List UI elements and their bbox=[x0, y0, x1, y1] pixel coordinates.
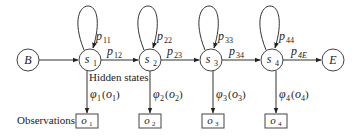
observation-box-3: o 3 bbox=[202, 114, 224, 128]
emission-label-1: φ 1 ( o 1 ) bbox=[90, 87, 120, 103]
svg-text:p: p bbox=[217, 29, 224, 43]
self-loop-label-s1: p 11 bbox=[95, 29, 111, 45]
node-B-label: B bbox=[24, 53, 32, 67]
observation-box-2: o 2 bbox=[139, 114, 161, 128]
self-loop-label-s2: p 22 bbox=[156, 29, 172, 45]
svg-text:3: 3 bbox=[223, 94, 227, 103]
svg-text:2: 2 bbox=[152, 120, 156, 128]
svg-text:φ: φ bbox=[279, 87, 286, 101]
svg-text:o: o bbox=[144, 114, 150, 126]
self-loop-s1 bbox=[78, 6, 97, 50]
svg-text:p: p bbox=[95, 29, 102, 43]
transition-label-s4-E: p 4E bbox=[290, 44, 307, 60]
svg-text:12: 12 bbox=[114, 51, 122, 60]
node-B: B bbox=[17, 49, 39, 71]
svg-text:p: p bbox=[228, 44, 235, 58]
svg-text:o: o bbox=[81, 114, 87, 126]
svg-text:4: 4 bbox=[278, 120, 282, 128]
emission-label-3: φ 3 ( o 3 ) bbox=[216, 87, 246, 103]
node-s1: s 1 bbox=[79, 49, 101, 71]
svg-text:34: 34 bbox=[236, 51, 244, 60]
svg-text:23: 23 bbox=[174, 51, 182, 60]
self-loop-s3 bbox=[199, 6, 218, 50]
svg-text:4: 4 bbox=[286, 94, 290, 103]
svg-text:p: p bbox=[166, 44, 173, 58]
svg-text:s: s bbox=[145, 52, 150, 66]
hidden-states-label: Hidden states bbox=[89, 71, 149, 83]
svg-text:3: 3 bbox=[214, 59, 218, 68]
svg-text:4E: 4E bbox=[298, 51, 307, 60]
svg-text:s: s bbox=[85, 52, 90, 66]
observation-box-1: o 1 bbox=[76, 114, 98, 128]
svg-text:1: 1 bbox=[89, 120, 93, 128]
svg-text:p: p bbox=[278, 29, 285, 43]
svg-text:p: p bbox=[156, 29, 163, 43]
svg-text:p: p bbox=[290, 44, 297, 58]
svg-text:2: 2 bbox=[153, 59, 157, 68]
observations-label: Observations bbox=[17, 114, 75, 126]
svg-text:φ: φ bbox=[90, 87, 97, 101]
svg-text:3: 3 bbox=[215, 120, 219, 128]
svg-text:1: 1 bbox=[93, 59, 97, 68]
self-loop-label-s4: p 44 bbox=[278, 29, 294, 45]
svg-text:φ: φ bbox=[216, 87, 223, 101]
svg-text:): ) bbox=[242, 88, 246, 101]
transition-label-s1-s2: p 12 bbox=[106, 44, 122, 60]
svg-text:4: 4 bbox=[275, 59, 279, 68]
node-E: E bbox=[322, 49, 344, 71]
node-E-label: E bbox=[328, 53, 337, 67]
node-s4: s 4 bbox=[261, 49, 283, 71]
svg-text:1: 1 bbox=[97, 94, 101, 103]
svg-text:): ) bbox=[179, 88, 183, 101]
svg-text:): ) bbox=[116, 88, 120, 101]
svg-text:φ: φ bbox=[153, 87, 160, 101]
node-s2: s 2 bbox=[139, 49, 161, 71]
node-s3: s 3 bbox=[200, 49, 222, 71]
self-loop-label-s3: p 33 bbox=[217, 29, 233, 45]
svg-text:o: o bbox=[270, 114, 276, 126]
emission-label-4: φ 4 ( o 4 ) bbox=[279, 87, 309, 103]
transition-label-s3-s4: p 34 bbox=[228, 44, 244, 60]
transition-label-s2-s3: p 23 bbox=[166, 44, 182, 60]
self-loop-s4 bbox=[260, 6, 279, 50]
emission-label-2: φ 2 ( o 2 ) bbox=[153, 87, 183, 103]
svg-text:s: s bbox=[206, 52, 211, 66]
svg-text:o: o bbox=[207, 114, 213, 126]
svg-text:s: s bbox=[267, 52, 272, 66]
svg-text:): ) bbox=[305, 88, 309, 101]
svg-text:2: 2 bbox=[160, 94, 164, 103]
hmm-diagram: B s 1 s 2 s 3 s 4 E p 11 p 22 p 33 p 44 bbox=[0, 0, 361, 139]
observation-box-4: o 4 bbox=[265, 114, 287, 128]
self-loop-s2 bbox=[138, 6, 157, 50]
svg-text:p: p bbox=[106, 44, 113, 58]
